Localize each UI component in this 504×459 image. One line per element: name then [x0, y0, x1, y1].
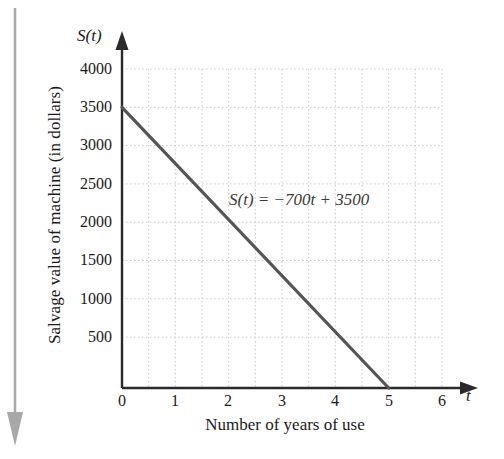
- y-tick-label: 500: [60, 328, 112, 346]
- x-tick-label: 2: [216, 392, 240, 410]
- x-tick-label: 6: [430, 392, 454, 410]
- equation-text: S(t) = −700t + 3500: [229, 190, 369, 209]
- y-tick-label: 4000: [60, 60, 112, 78]
- y-axis: [116, 31, 129, 388]
- x-tick-label: 5: [377, 392, 401, 410]
- x-axis-symbol: t: [466, 386, 471, 406]
- grid-vertical: [149, 69, 442, 388]
- equation-annotation: S(t) = −700t + 3500: [229, 190, 369, 210]
- x-tick-label: 3: [270, 392, 294, 410]
- salvage-value-figure: S(t) t 4000 3500 3000 2500 2000 1500 100…: [0, 0, 504, 459]
- x-tick-label: 4: [323, 392, 347, 410]
- y-axis-symbol: S(t): [77, 26, 102, 46]
- y-tick-label: 3500: [60, 98, 112, 116]
- y-tick-label: 2000: [60, 213, 112, 231]
- y-tick-label: 1500: [60, 251, 112, 269]
- y-tick-label: 1000: [60, 290, 112, 308]
- y-tick-label: 2500: [60, 175, 112, 193]
- x-tick-label: 0: [110, 392, 134, 410]
- x-axis-caption: Number of years of use: [120, 415, 450, 435]
- y-tick-label: 3000: [60, 136, 112, 154]
- y-axis-caption: Salvage value of machine (in dollars): [45, 45, 65, 385]
- x-tick-label: 1: [163, 392, 187, 410]
